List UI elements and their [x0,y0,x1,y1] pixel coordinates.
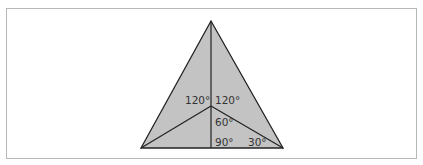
angle-label-120-left: 120° [185,94,210,106]
triangle-diagram: 120° 120° 60° 90° 30° [0,0,423,165]
angle-label-120-right: 120° [215,94,240,106]
angle-label-60: 60° [215,116,234,128]
outer-triangle [141,21,283,148]
angle-label-90: 90° [215,136,234,148]
angle-label-30: 30° [248,136,267,148]
